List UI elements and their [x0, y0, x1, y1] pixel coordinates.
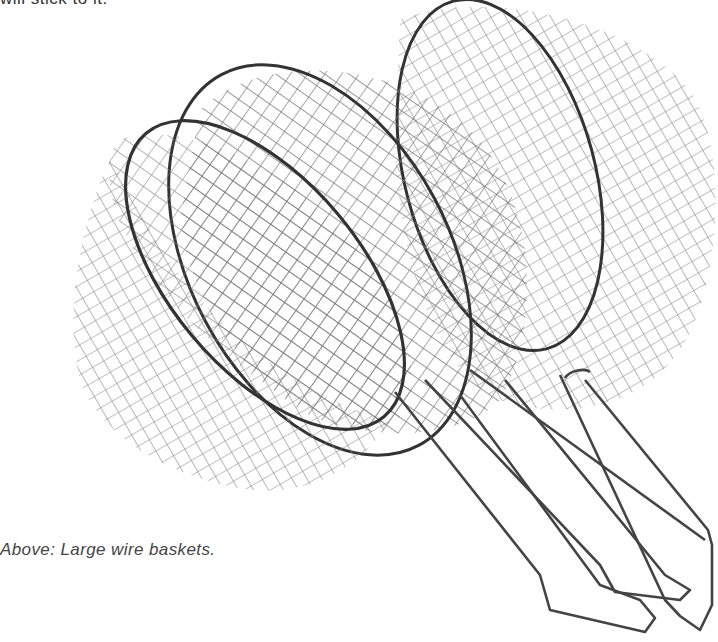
- figure-caption: Above: Large wire baskets.: [0, 540, 215, 560]
